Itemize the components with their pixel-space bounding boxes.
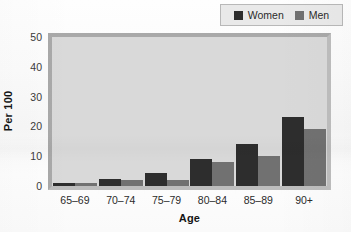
x-axis-title: Age <box>48 212 331 224</box>
x-tick-label: 80–84 <box>198 195 227 206</box>
bar-women-85_89[interactable] <box>236 144 258 186</box>
bar-men-85_89[interactable] <box>258 156 280 186</box>
x-axis-strip <box>48 190 331 194</box>
chart-page: Women Men Per 100 01020304050 65–6970–74… <box>0 0 351 232</box>
x-tick-label: 70–74 <box>106 195 135 206</box>
y-axis-title: Per 100 <box>1 76 15 146</box>
y-tick-label: 40 <box>30 62 42 73</box>
legend-item-women[interactable]: Women <box>234 10 284 21</box>
legend-swatch-women-icon <box>234 11 243 20</box>
x-axis-tick-labels: 65–6970–7475–7980–8485–8990+ <box>48 195 331 209</box>
bar-women-80_84[interactable] <box>190 159 212 186</box>
bar-men-80_84[interactable] <box>212 162 234 186</box>
legend-label-men: Men <box>309 10 329 21</box>
legend-item-men[interactable]: Men <box>295 10 329 21</box>
bar-women-65_69[interactable] <box>53 183 75 186</box>
chart-legend: Women Men <box>220 4 343 26</box>
bar-men-70_74[interactable] <box>121 180 143 186</box>
x-tick-label: 65–69 <box>60 195 89 206</box>
bar-men-75_79[interactable] <box>167 180 189 186</box>
x-tick-separator <box>281 190 282 194</box>
legend-label-women: Women <box>248 10 284 21</box>
bar-women-75_79[interactable] <box>145 173 167 186</box>
bar-women-90+[interactable] <box>282 117 304 186</box>
bar-women-70_74[interactable] <box>99 179 121 186</box>
x-tick-label: 75–79 <box>152 195 181 206</box>
x-tick-label: 85–89 <box>244 195 273 206</box>
y-tick-label: 50 <box>30 32 42 43</box>
x-tick-separator <box>144 190 145 194</box>
y-tick-label: 10 <box>30 151 42 162</box>
x-tick-separator <box>98 190 99 194</box>
bar-men-90+[interactable] <box>304 129 326 186</box>
y-tick-label: 20 <box>30 121 42 132</box>
y-tick-label: 0 <box>36 181 42 192</box>
x-tick-separator <box>190 190 191 194</box>
bar-men-65_69[interactable] <box>75 183 97 186</box>
plot-inner <box>52 37 327 186</box>
y-tick-label: 30 <box>30 91 42 102</box>
x-tick-separator <box>235 190 236 194</box>
y-axis-title-text: Per 100 <box>2 91 14 132</box>
plot-area <box>48 33 331 190</box>
y-axis-tick-labels: 01020304050 <box>16 33 42 190</box>
legend-swatch-men-icon <box>295 11 304 20</box>
x-tick-label: 90+ <box>295 195 313 206</box>
